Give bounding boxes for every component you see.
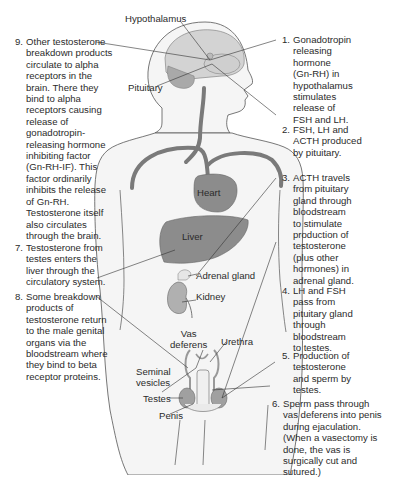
label-liver: Liver: [182, 231, 203, 242]
step-text: LH and FSH pass from pituitary gland thr…: [293, 285, 353, 353]
step-text: Testosterone from testes enters the live…: [26, 242, 105, 288]
label-pituitary: Pituitary: [128, 82, 163, 93]
label-seminal-vesicles: Seminal vesicles: [136, 366, 171, 388]
step-text: Production of testosterone and sperm by …: [293, 350, 351, 396]
step-text: Gonadotropin releasing hormone (Gn-RH) i…: [293, 34, 353, 125]
label-urethra: Urethra: [221, 336, 253, 347]
label-heart: Heart: [197, 187, 220, 198]
label-testes: Testes: [143, 393, 171, 404]
label-hypothalamus: Hypothalamus: [125, 13, 186, 24]
step-text: FSH, LH and ACTH produced by pituitary.: [293, 124, 362, 158]
step-number: 6.: [266, 398, 280, 409]
label-vas-deferens: Vas deferens: [170, 328, 207, 350]
label-penis: Penis: [159, 410, 183, 421]
step-text: ACTH travels from pituitary gland throug…: [293, 172, 354, 286]
step-text: Some breakdown products of testosterone …: [26, 291, 108, 382]
step-number: 1.: [276, 34, 290, 45]
step-number: 8.: [9, 291, 23, 302]
step-text: Other testosterone breakdown products ci…: [26, 36, 112, 241]
step-number: 7.: [9, 242, 23, 253]
step-number: 3.: [276, 172, 290, 183]
step-text: Sperm pass through vas deferens into pen…: [283, 398, 382, 478]
label-adrenal-gland: Adrenal gland: [196, 270, 255, 281]
step-number: 2.: [276, 124, 290, 135]
step-number: 4.: [276, 285, 290, 296]
step-number: 9.: [9, 36, 23, 47]
label-kidney: Kidney: [196, 291, 225, 302]
step-number: 5.: [276, 350, 290, 361]
